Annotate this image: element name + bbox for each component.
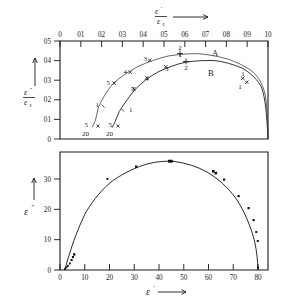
bottom-ytick-label-10: 10: [44, 236, 52, 244]
bottom-xtick-label-50: 50: [180, 274, 188, 282]
top-xtick-label-10: 10: [264, 31, 272, 39]
curve-a-point-label-3: 3: [144, 55, 148, 63]
curve-a-name-label: A: [212, 48, 219, 58]
top-xaxis-title-num: ε: [155, 7, 159, 16]
top-ytick-label-04: 04: [44, 57, 52, 65]
top-xaxis-arrow-icon: [173, 15, 208, 20]
top-xaxis-title: ε ′ ε s: [155, 6, 208, 27]
bottom-xaxis-ticks: [60, 264, 258, 270]
bottom-xtick-label-80: 80: [254, 274, 262, 282]
top-xaxis-title-den-sub: s: [163, 21, 165, 27]
bottom-panel: 0 10 20 30 40 50 60 70 80 ε ′ 0 10 20 30: [24, 152, 268, 297]
curve-b-point-label-5b: 5: [131, 85, 135, 93]
curve-b-point-label-1: 1: [129, 106, 133, 114]
bottom-xtick-label-20: 20: [106, 274, 114, 282]
bottom-xaxis-arrow-icon: [158, 290, 186, 295]
curve-b-point-label-3: 3: [165, 65, 169, 73]
bottom-yaxis-ticks: [54, 179, 60, 270]
curve-a-point-label-1b: 1: [178, 51, 182, 59]
top-xaxis-title-den: ε: [157, 17, 161, 26]
figure-svg: 0 01 02 03 04 05 06 07 08 09 10 ε ′ ε s: [0, 0, 298, 300]
bottom-xtick-label-0: 0: [58, 274, 62, 282]
curve-b-name-label: B: [208, 68, 214, 78]
bottom-xaxis-title: ε ′: [146, 284, 186, 297]
top-xtick-label-9: 09: [244, 31, 252, 39]
top-xaxis-ticks: [60, 41, 268, 47]
curve-a-point-label-5: 5: [85, 121, 89, 129]
bottom-xtick-label-70: 70: [230, 274, 238, 282]
bottom-data-points: [64, 160, 259, 270]
top-yaxis-title-num: ε: [24, 88, 28, 97]
top-ytick-label-02: 02: [44, 96, 52, 104]
top-ytick-label-0: 0: [47, 136, 51, 144]
curve-b-point-label-5: 5: [109, 121, 113, 129]
top-ytick-label-01: 01: [44, 116, 52, 124]
top-xaxis-title-prime: ′: [161, 6, 163, 12]
curve-b-markers: [117, 59, 249, 128]
top-yaxis-title-prime: ″: [30, 87, 33, 93]
top-xtick-label-7: 07: [202, 31, 210, 39]
top-xtick-label-4: 04: [140, 31, 148, 39]
top-yaxis-ticks: [54, 41, 60, 139]
bottom-arc-path: [65, 161, 258, 270]
bottom-xtick-label-30: 30: [131, 274, 139, 282]
bottom-ytick-label-30: 30: [44, 176, 52, 184]
top-xtick-label-0: 0: [58, 31, 62, 39]
top-yaxis-title-den: ε: [24, 98, 28, 107]
top-panel: 0 01 02 03 04 05 06 07 08 09 10 ε ′ ε s: [23, 6, 272, 144]
top-xtick-label-6: 06: [181, 31, 189, 39]
bottom-xtick-label-10: 10: [81, 274, 89, 282]
top-xtick-label-5: 05: [160, 31, 168, 39]
bottom-yaxis-title-eps: ε: [24, 206, 28, 217]
bottom-yaxis-title-prime: ″: [31, 203, 34, 211]
curve-a-point-label-4: 4: [124, 68, 128, 76]
bottom-yaxis-arrow-icon: [32, 178, 37, 200]
top-ytick-label-03: 03: [44, 77, 52, 85]
bottom-xaxis-title-eps: ε: [146, 286, 150, 297]
bottom-plot-frame: [60, 152, 268, 270]
top-yaxis-arrow-icon: [33, 58, 38, 86]
bottom-yaxis-title: ε ″: [24, 178, 36, 217]
curve-a-point-label-1c: 1: [241, 70, 245, 78]
curve-b-point-label-20: 20: [106, 130, 114, 138]
curve-b-point-label-2: 2: [184, 64, 188, 72]
curve-b-point-label-4: 4: [145, 75, 149, 83]
top-ytick-label-05: 05: [44, 38, 52, 46]
top-yaxis-title-den-sub: s: [30, 102, 32, 108]
top-xtick-label-1: 01: [77, 31, 85, 39]
top-plot-frame: [60, 41, 268, 139]
figure-container: 0 01 02 03 04 05 06 07 08 09 10 ε ′ ε s: [0, 0, 298, 300]
top-xtick-label-3: 03: [119, 31, 127, 39]
bottom-ytick-label-0: 0: [47, 267, 51, 275]
top-xtick-label-2: 02: [98, 31, 106, 39]
bottom-xtick-label-40: 40: [155, 274, 163, 282]
top-yaxis-title: ε ″ ε s: [23, 58, 37, 108]
curve-a-point-label-20: 20: [82, 130, 90, 138]
bottom-ytick-label-20: 20: [44, 206, 52, 214]
bottom-xaxis-title-prime: ′: [153, 284, 155, 292]
curve-a-point-label-5b: 5: [107, 79, 111, 87]
top-xtick-label-8: 08: [223, 31, 231, 39]
curve-a-point-label-1: 1: [96, 101, 100, 109]
curve-b-point-label-1prime: 1: [238, 83, 242, 91]
bottom-xtick-label-60: 60: [205, 274, 213, 282]
